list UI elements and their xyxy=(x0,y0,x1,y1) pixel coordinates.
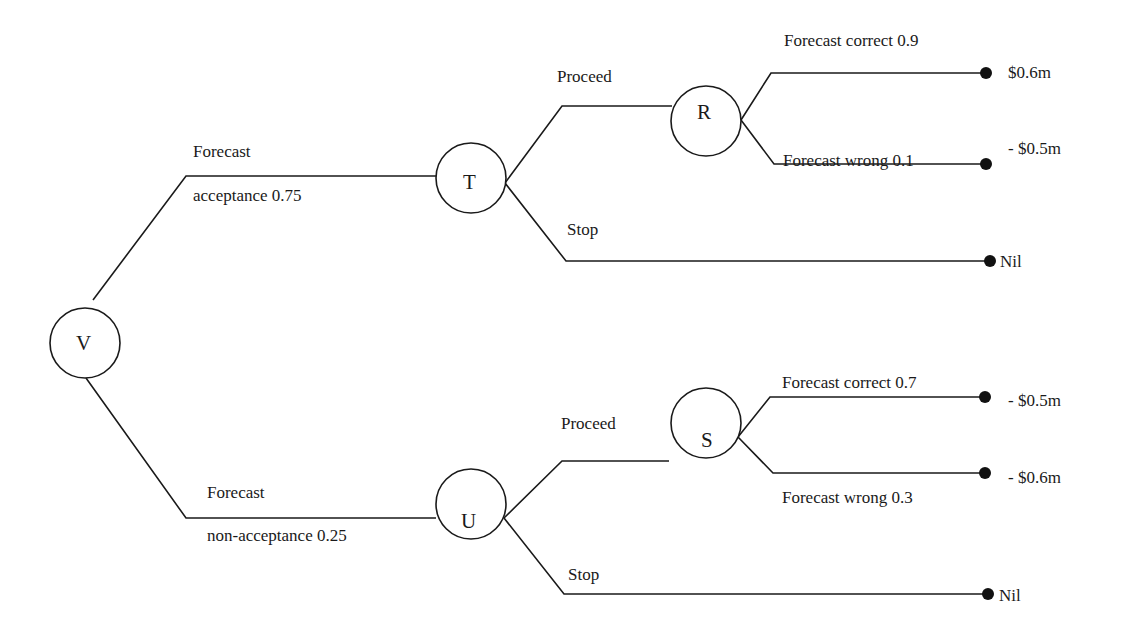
terminal-dot-r-wrong xyxy=(980,158,992,170)
branch-label-t-stop: Stop xyxy=(567,221,598,238)
branch-label-v-t-line1: Forecast xyxy=(193,143,251,160)
terminal-dot-s-correct xyxy=(979,391,991,403)
outcome-u-stop: Nil xyxy=(999,587,1021,604)
branch-label-r-correct: Forecast correct 0.9 xyxy=(784,32,919,49)
branch-u-proceed xyxy=(504,461,669,518)
outcome-r-wrong: - $0.5m xyxy=(1008,140,1061,157)
node-label-u: U xyxy=(461,511,476,532)
outcome-r-correct: $0.6m xyxy=(1008,64,1051,81)
branch-label-u-proceed: Proceed xyxy=(561,415,616,432)
node-label-t: T xyxy=(463,172,476,193)
terminal-dot-t-stop xyxy=(984,255,996,267)
branch-label-s-correct: Forecast correct 0.7 xyxy=(782,374,917,391)
terminal-dot-u-stop xyxy=(982,588,994,600)
node-label-v: V xyxy=(76,333,91,354)
terminal-dot-r-correct xyxy=(980,67,992,79)
branch-label-r-wrong: Forecast wrong 0.1 xyxy=(783,152,914,169)
node-label-s: S xyxy=(701,430,713,451)
branch-label-u-stop: Stop xyxy=(568,566,599,583)
outcome-t-stop: Nil xyxy=(1000,253,1022,270)
branch-t-proceed xyxy=(505,106,672,183)
outcome-s-correct: - $0.5m xyxy=(1008,392,1061,409)
branch-label-v-t-line2: acceptance 0.75 xyxy=(193,187,302,204)
branch-r-correct xyxy=(741,73,986,120)
branch-label-v-u-line2: non-acceptance 0.25 xyxy=(207,527,347,544)
node-label-r: R xyxy=(697,102,711,123)
branch-label-v-u-line1: Forecast xyxy=(207,484,265,501)
branch-s-correct xyxy=(738,397,985,437)
branch-label-s-wrong: Forecast wrong 0.3 xyxy=(782,489,913,506)
terminal-dot-s-wrong xyxy=(979,467,991,479)
outcome-s-wrong: - $0.6m xyxy=(1008,469,1061,486)
branch-s-wrong xyxy=(738,437,985,473)
branch-label-t-proceed: Proceed xyxy=(557,68,612,85)
decision-tree-lines xyxy=(0,0,1124,640)
